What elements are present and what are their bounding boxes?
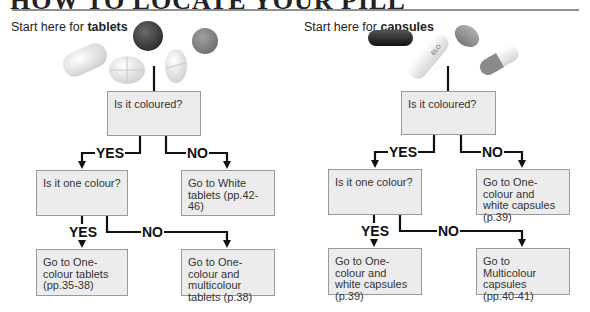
tablets-yes2-label: YES [68, 224, 98, 240]
capsules-no2-label: NO [437, 223, 460, 239]
capsules-result-one-colour-white: Go to One-colour and white capsules (p.3… [476, 169, 570, 215]
capsules-result-one-colour-white-2: Go to One-colour and white capsules (p.3… [328, 248, 422, 295]
tablets-question-one-colour: Is it one colour? [36, 170, 128, 216]
tablets-result-multicolour: Go to One-colour and multicolour tablets… [181, 249, 275, 296]
tablets-no1-label: NO [186, 145, 209, 161]
capsules-result-multicolour: Go to Multicolour capsules (pp.40-41) [476, 248, 570, 295]
tablets-result-one-colour: Go to One-colour tablets (pp.35-38) [36, 249, 128, 296]
tablets-yes1-label: YES [95, 145, 125, 161]
capsules-question-one-colour: Is it one colour? [328, 169, 422, 215]
tablets-no2-label: NO [141, 224, 164, 240]
tablets-question-coloured: Is it coloured? [107, 91, 201, 136]
capsules-question-coloured: Is it coloured? [401, 91, 496, 135]
tablets-result-white: Go to White tablets (pp.42-46) [181, 170, 275, 216]
capsules-no1-label: NO [481, 144, 504, 160]
capsules-yes2-label: YES [360, 223, 390, 239]
tablets-no2-arrow [107, 216, 227, 244]
capsules-yes1-label: YES [388, 144, 418, 160]
